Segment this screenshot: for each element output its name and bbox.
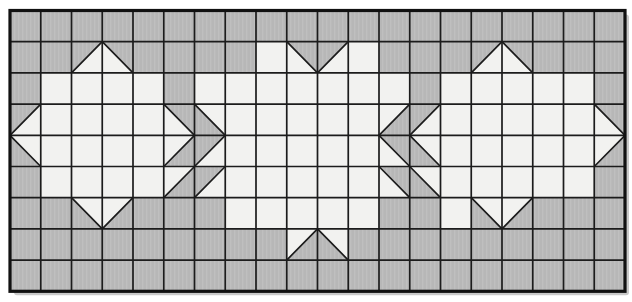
white-cell — [287, 167, 318, 198]
gray-cell — [10, 42, 41, 73]
white-cell — [41, 167, 72, 198]
white-cell — [318, 73, 349, 104]
white-cell — [41, 73, 72, 104]
gray-cell — [471, 229, 502, 260]
gray-cell — [379, 42, 410, 73]
white-cell — [318, 167, 349, 198]
gray-cell — [225, 229, 256, 260]
white-cell — [318, 104, 349, 135]
gray-cell — [410, 11, 441, 42]
gray-cell — [379, 198, 410, 229]
white-cell — [564, 167, 595, 198]
white-cell — [348, 198, 379, 229]
gray-cell — [225, 42, 256, 73]
white-cell — [72, 104, 103, 135]
white-cell — [256, 42, 287, 73]
white-cell — [287, 198, 318, 229]
gray-cell — [594, 198, 625, 229]
gray-cell — [10, 73, 41, 104]
gray-cell — [318, 11, 349, 42]
white-cell — [225, 135, 256, 166]
gray-cell — [348, 11, 379, 42]
gray-cell — [379, 260, 410, 291]
white-cell — [502, 167, 533, 198]
gray-cell — [348, 260, 379, 291]
white-cell — [133, 104, 164, 135]
gray-cell — [195, 198, 226, 229]
gray-cell — [410, 73, 441, 104]
gray-cell — [10, 11, 41, 42]
white-cell — [533, 104, 564, 135]
gray-cell — [41, 198, 72, 229]
white-cell — [564, 73, 595, 104]
gray-cell — [102, 229, 133, 260]
gray-cell — [379, 229, 410, 260]
gray-cell — [533, 11, 564, 42]
gray-cell — [10, 167, 41, 198]
white-cell — [533, 167, 564, 198]
gray-cell — [133, 42, 164, 73]
gray-cell — [441, 11, 472, 42]
gray-cell — [102, 260, 133, 291]
white-cell — [72, 135, 103, 166]
gray-cell — [564, 11, 595, 42]
gray-cell — [133, 11, 164, 42]
gray-cell — [533, 42, 564, 73]
gray-cell — [164, 11, 195, 42]
gray-cell — [594, 11, 625, 42]
white-cell — [348, 167, 379, 198]
white-cell — [348, 104, 379, 135]
gray-cell — [287, 260, 318, 291]
quilt-pattern-figure — [0, 0, 632, 302]
gray-cell — [41, 11, 72, 42]
gray-cell — [594, 167, 625, 198]
gray-cell — [102, 11, 133, 42]
gray-cell — [256, 11, 287, 42]
gray-cell — [564, 229, 595, 260]
gray-cell — [72, 11, 103, 42]
gray-cell — [41, 229, 72, 260]
gray-cell — [441, 260, 472, 291]
white-cell — [471, 135, 502, 166]
gray-cell — [594, 42, 625, 73]
white-cell — [102, 167, 133, 198]
white-cell — [256, 135, 287, 166]
white-cell — [195, 73, 226, 104]
white-cell — [533, 73, 564, 104]
gray-cell — [379, 11, 410, 42]
gray-cell — [410, 42, 441, 73]
white-cell — [72, 73, 103, 104]
gray-cell — [594, 73, 625, 104]
gray-cell — [471, 260, 502, 291]
white-cell — [533, 135, 564, 166]
white-cell — [348, 42, 379, 73]
gray-cell — [133, 229, 164, 260]
gray-cell — [348, 229, 379, 260]
gray-cell — [225, 260, 256, 291]
white-cell — [256, 73, 287, 104]
white-cell — [102, 135, 133, 166]
white-cell — [502, 73, 533, 104]
gray-cell — [41, 260, 72, 291]
gray-cell — [410, 198, 441, 229]
gray-cell — [164, 198, 195, 229]
white-cell — [318, 198, 349, 229]
white-cell — [441, 73, 472, 104]
white-cell — [502, 135, 533, 166]
white-cell — [225, 167, 256, 198]
gray-cell — [164, 42, 195, 73]
white-cell — [502, 104, 533, 135]
white-cell — [102, 104, 133, 135]
white-cell — [441, 167, 472, 198]
white-cell — [471, 73, 502, 104]
white-cell — [287, 73, 318, 104]
gray-cell — [502, 11, 533, 42]
gray-cell — [164, 260, 195, 291]
gray-cell — [502, 229, 533, 260]
white-cell — [441, 198, 472, 229]
gray-cell — [133, 198, 164, 229]
gray-cell — [533, 229, 564, 260]
gray-cell — [441, 42, 472, 73]
white-cell — [256, 104, 287, 135]
gray-cell — [225, 11, 256, 42]
